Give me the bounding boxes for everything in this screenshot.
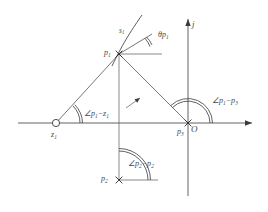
ang-p2-p2-sub1: 2: [139, 163, 142, 169]
curve-s1: [112, 15, 142, 66]
arc-angle-p1-p3: [171, 99, 213, 123]
ang-p1-z1-b: −z: [98, 109, 107, 118]
p1-sub: 1: [108, 52, 111, 58]
theta-p1-base: θp: [158, 30, 166, 39]
p2-sub: 2: [105, 178, 108, 184]
ang-p2-p2-a: ∠p: [128, 159, 139, 168]
angle-label-p2-p2: ∠p2−p2: [128, 160, 154, 168]
ang-p1-p3-sub1: 1: [223, 100, 226, 106]
diagram-canvas: s1 θp1 p1 j ∠p1−z1 z1 ∠p1−p3 p3 O ∠p2−p2…: [0, 0, 268, 212]
vector-p3-p1: [119, 54, 188, 123]
angle-label-p1-p3: ∠p1−p3: [212, 97, 238, 105]
z1-sub: 1: [54, 134, 57, 140]
ang-p1-p3-sub2: 3: [235, 100, 238, 106]
angle-label-p1-z1: ∠p1−z1: [84, 110, 109, 118]
point-label-p3: p3: [177, 128, 184, 136]
ang-p2-p2-b: −p: [142, 159, 151, 168]
point-label-p2: p2: [101, 175, 108, 183]
zero-marker-z1: [52, 119, 59, 126]
angle-label-theta-p1: θp1: [158, 31, 169, 39]
origin-label: O: [191, 125, 198, 134]
axis-label-j: j: [192, 20, 195, 29]
point-label-z1: z1: [51, 131, 57, 139]
ang-p1-z1-sub2: 1: [106, 113, 109, 119]
ang-p1-p3-b: −p: [226, 96, 235, 105]
ang-p2-p2-sub2: 2: [151, 163, 154, 169]
p3-sub: 3: [181, 131, 184, 137]
point-label-p1: p1: [104, 49, 111, 57]
ang-p1-p3-a: ∠p: [212, 96, 223, 105]
ang-p1-z1-sub1: 1: [95, 113, 98, 119]
direction-arrow-icon: [126, 98, 140, 108]
theta-p1-sub: 1: [166, 34, 169, 40]
curve-label-s1: s1: [119, 27, 124, 35]
imaginary-axis: [185, 19, 190, 196]
arc-theta-p1: [145, 37, 152, 47]
ang-p1-z1-a: ∠p: [84, 109, 95, 118]
figure-svg: [0, 0, 268, 212]
arc-angle-p1-z1: [73, 105, 83, 123]
